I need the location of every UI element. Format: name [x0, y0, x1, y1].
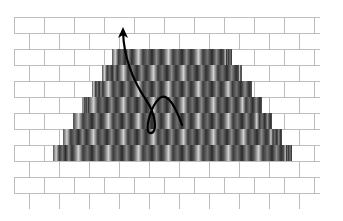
shaded-brick: [104, 145, 134, 161]
shaded-brick: [254, 113, 272, 129]
shaded-brick: [224, 113, 254, 129]
shaded-brick: [179, 129, 209, 145]
shaded-brick: [239, 65, 242, 81]
shaded-brick: [89, 129, 119, 145]
shaded-brick: [112, 49, 134, 65]
shaded-brick: [164, 145, 194, 161]
shaded-brick: [74, 113, 104, 129]
shaded-brick: [74, 145, 104, 161]
shaded-brick: [224, 49, 232, 65]
shaded-brick: [73, 113, 74, 129]
shaded-brick: [82, 97, 89, 113]
shaded-brick: [119, 129, 149, 145]
shaded-brick: [224, 145, 254, 161]
shaded-brick: [254, 145, 284, 161]
shaded-brick: [104, 81, 134, 97]
shaded-brick: [269, 129, 282, 145]
shaded-brick: [194, 49, 224, 65]
shaded-brick: [194, 145, 224, 161]
shaded-brick: [102, 65, 119, 81]
shaded-brick: [89, 97, 119, 113]
shaded-brick: [104, 113, 134, 129]
shaded-brick: [209, 65, 239, 81]
shaded-brick: [179, 97, 209, 113]
shaded-brick: [92, 81, 104, 97]
shaded-brick: [164, 49, 194, 65]
shaded-brick: [239, 97, 262, 113]
shaded-brick: [209, 97, 239, 113]
shaded-brick: [239, 129, 269, 145]
shaded-brick: [194, 81, 224, 97]
shaded-brick: [149, 65, 179, 81]
shaded-brick: [164, 81, 194, 97]
shaded-brick: [194, 113, 224, 129]
shaded-brick: [224, 81, 252, 97]
shaded-brick: [284, 145, 292, 161]
shaded-brick: [134, 145, 164, 161]
shaded-brick: [134, 49, 164, 65]
diagram-canvas: [0, 0, 343, 221]
shaded-brick: [53, 145, 74, 161]
shaded-brick: [63, 129, 89, 145]
shaded-brick: [179, 65, 209, 81]
shaded-brick: [209, 129, 239, 145]
